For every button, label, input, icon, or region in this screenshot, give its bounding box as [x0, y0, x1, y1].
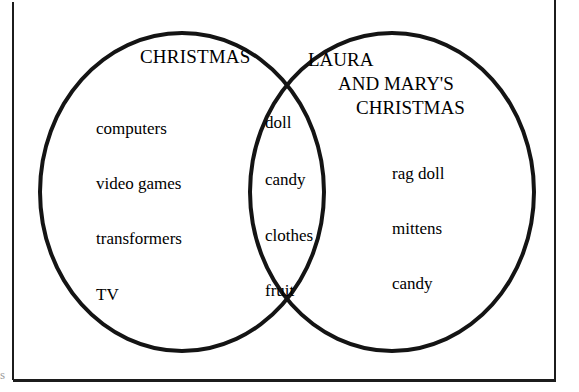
venn-item-right-2: candy — [392, 274, 433, 294]
page-frame-left-rule — [12, 2, 14, 380]
venn-item-intersection-0: doll — [265, 113, 291, 133]
set-title-line-2: AND MARY'S — [308, 72, 465, 96]
set-title-christmas: CHRISTMAS — [140, 46, 251, 68]
venn-item-left-1: video games — [96, 174, 181, 194]
venn-item-left-3: TV — [96, 285, 119, 305]
venn-item-intersection-2: clothes — [265, 226, 313, 246]
venn-diagram-page: s CHRISTMAS LAURA AND MARY'S CHRISTMAS c… — [0, 0, 579, 392]
page-frame-right-rule — [554, 0, 556, 380]
venn-item-left-2: transformers — [96, 229, 182, 249]
venn-item-right-0: rag doll — [392, 164, 444, 184]
set-title-laura-and-marys-christmas: LAURA AND MARY'S CHRISTMAS — [308, 48, 465, 120]
venn-item-intersection-3: fruit — [265, 281, 294, 301]
scan-artifact-mark: s — [0, 368, 9, 382]
set-title-line-1: LAURA — [308, 48, 465, 72]
venn-item-left-0: computers — [96, 119, 167, 139]
set-title-line-3: CHRISTMAS — [308, 96, 465, 120]
venn-item-right-1: mittens — [392, 219, 442, 239]
venn-item-intersection-1: candy — [265, 170, 306, 190]
page-frame-bottom-rule — [13, 379, 556, 382]
